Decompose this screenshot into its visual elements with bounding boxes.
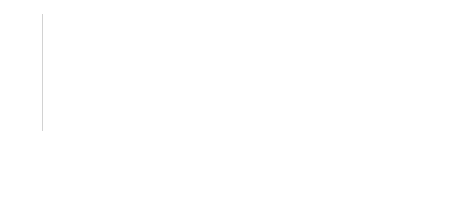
y-axis xyxy=(0,0,40,140)
bars-container xyxy=(43,14,460,131)
plot-canvas xyxy=(42,14,460,131)
plot-area xyxy=(0,0,464,140)
stacked-bar-chart xyxy=(0,0,464,203)
